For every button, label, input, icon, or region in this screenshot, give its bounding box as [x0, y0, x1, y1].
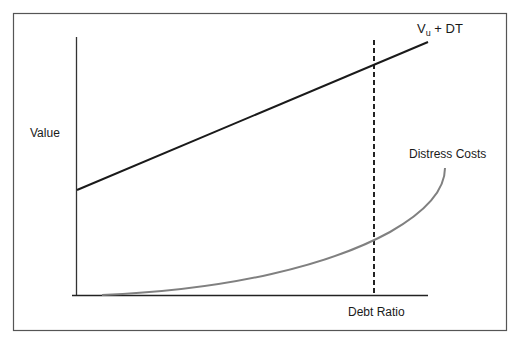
vu-plus-dt-label: Vu + DT	[417, 21, 463, 38]
chart-frame	[14, 14, 507, 331]
chart-figure	[0, 0, 525, 346]
distress-costs-curve	[102, 168, 445, 295]
distress-costs-label: Distress Costs	[409, 147, 486, 161]
x-axis-label: Debt Ratio	[348, 305, 405, 319]
y-axis-label: Value	[30, 126, 60, 140]
vu-plus-dt-line	[77, 42, 428, 190]
